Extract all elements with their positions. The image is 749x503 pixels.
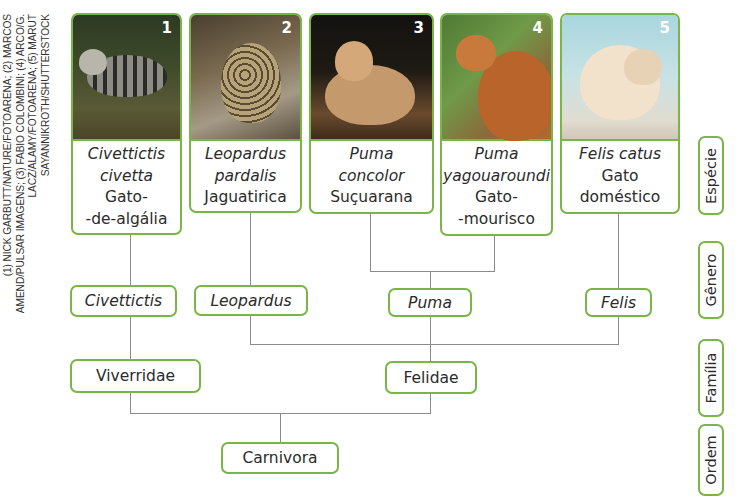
- civet-photo: 1: [73, 15, 180, 141]
- scientific-name: concolor: [311, 166, 432, 188]
- order-node-carnivora: Carnivora: [221, 442, 339, 474]
- common-name: doméstico: [562, 187, 678, 209]
- species-number: 1: [162, 19, 172, 37]
- ocelot-photo: 2: [191, 15, 300, 141]
- connector-line: [250, 316, 251, 345]
- scientific-name: civetta: [73, 166, 180, 188]
- genus-node-felis: Felis: [585, 288, 652, 317]
- connector-line: [430, 271, 431, 289]
- family-node-felidae: Felidae: [385, 361, 477, 394]
- common-name: Suçuarana: [311, 187, 432, 209]
- species-card-civettictis-civetta: 1 Civettictis civetta Gato- -de-algália: [71, 13, 182, 235]
- species-number: 2: [282, 19, 292, 37]
- scientific-name: Civettictis: [73, 144, 180, 166]
- scientific-name: pardalis: [191, 166, 300, 188]
- jaguarundi-photo: 4: [442, 15, 551, 141]
- connector-line: [130, 393, 131, 413]
- species-card-puma-concolor: 3 Puma concolor Suçuarana: [309, 13, 434, 214]
- species-number: 4: [533, 19, 543, 37]
- scientific-name: Puma: [311, 144, 432, 166]
- connector-line: [250, 344, 619, 345]
- species-number: 5: [660, 19, 670, 37]
- common-name: Jaguatirica: [191, 187, 300, 209]
- species-card-leopardus-pardalis: 2 Leopardus pardalis Jaguatirica: [189, 13, 302, 213]
- species-card-felis-catus: 5 Felis catus Gato doméstico: [560, 13, 680, 214]
- rank-label-genero: Gênero: [698, 241, 724, 319]
- rank-text: Gênero: [703, 254, 719, 307]
- rank-text: Espécie: [703, 148, 719, 204]
- rank-label-especie: Espécie: [698, 136, 724, 215]
- common-name: -mourisco: [442, 209, 551, 231]
- photo-credits: (1) NICK GARBUTT/NATURE/FOTOARENA; (2) M…: [2, 14, 62, 324]
- connector-line: [430, 394, 431, 413]
- photo-credits-text: (1) NICK GARBUTT/NATURE/FOTOARENA; (2) M…: [2, 14, 52, 324]
- connector-line: [430, 316, 431, 361]
- common-name: -de-algália: [73, 209, 180, 231]
- rank-label-ordem: Ordem: [698, 424, 724, 496]
- connector-line: [370, 271, 495, 272]
- genus-node-puma: Puma: [388, 288, 472, 317]
- genus-node-leopardus: Leopardus: [194, 285, 308, 316]
- connector-line: [618, 316, 619, 345]
- common-name: Gato: [562, 166, 678, 188]
- connector-line: [250, 212, 251, 285]
- rank-label-familia: Família: [698, 339, 724, 417]
- genus-node-civettictis: Civettictis: [70, 285, 177, 317]
- scientific-name: Puma: [442, 144, 551, 166]
- connector-line: [370, 213, 371, 271]
- scientific-name: Felis catus: [562, 144, 678, 166]
- connector-line: [130, 234, 131, 285]
- connector-line: [494, 235, 495, 271]
- scientific-name: yagouaroundi: [442, 166, 551, 188]
- rank-text: Ordem: [703, 435, 719, 484]
- common-name: Gato-: [442, 187, 551, 209]
- connector-line: [618, 213, 619, 289]
- family-node-viverridae: Viverridae: [70, 359, 201, 393]
- species-card-puma-yagouaroundi: 4 Puma yagouaroundi Gato- -mourisco: [440, 13, 553, 236]
- connector-line: [130, 317, 131, 359]
- species-number: 3: [414, 19, 424, 37]
- rank-text: Família: [703, 353, 719, 404]
- connector-line: [280, 413, 281, 442]
- puma-photo: 3: [311, 15, 432, 141]
- common-name: Gato-: [73, 187, 180, 209]
- domestic-cat-photo: 5: [562, 15, 678, 141]
- scientific-name: Leopardus: [191, 144, 300, 166]
